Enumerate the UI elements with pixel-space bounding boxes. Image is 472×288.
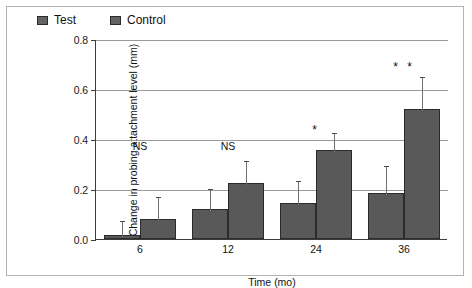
y-axis-tick xyxy=(91,240,96,241)
x-axis-tick-label: 12 xyxy=(184,243,272,255)
error-bar-cap xyxy=(208,189,213,190)
bar-group: 12 xyxy=(184,39,272,239)
figure-frame: Test Control Change in probing attachmen… xyxy=(6,6,464,276)
y-axis-tick-label: 0.8 xyxy=(74,34,88,46)
legend-item-control: Control xyxy=(110,13,166,27)
legend-label-control: Control xyxy=(127,13,166,27)
bar-test-24 xyxy=(280,203,316,239)
error-bar xyxy=(422,78,423,111)
error-bar xyxy=(122,222,123,238)
bar-test-12 xyxy=(192,209,228,239)
significance-annotation: * xyxy=(312,123,320,137)
x-axis-tick-label: 24 xyxy=(272,243,360,255)
error-bar-cap xyxy=(296,181,301,182)
x-axis-tick-label: 36 xyxy=(360,243,448,255)
chart-legend: Test Control xyxy=(37,13,166,27)
significance-annotation: NS xyxy=(221,140,236,152)
bar-group: 6 xyxy=(96,39,184,239)
y-axis-tick-label: 0.0 xyxy=(74,234,88,246)
error-bar xyxy=(246,162,247,185)
x-axis-title: Time (mo) xyxy=(96,276,448,288)
error-bar xyxy=(334,134,335,152)
bar-control-12 xyxy=(228,183,264,239)
significance-annotation: * * xyxy=(393,60,415,74)
legend-swatch-control xyxy=(110,16,121,25)
legend-label-test: Test xyxy=(54,13,76,27)
error-bar-cap xyxy=(120,221,125,222)
x-axis-tick-label: 6 xyxy=(96,243,184,255)
error-bar xyxy=(210,190,211,211)
bar-control-24 xyxy=(316,150,352,239)
bar-control-36 xyxy=(404,109,440,239)
error-bar-cap xyxy=(244,161,249,162)
legend-swatch-test xyxy=(37,16,48,25)
error-bar-cap xyxy=(420,77,425,78)
error-bar xyxy=(298,182,299,205)
plot-area: Change in probing attachment level (mm) … xyxy=(95,40,447,240)
y-axis-tick-label: 0.2 xyxy=(74,184,88,196)
bar-control-6 xyxy=(140,219,176,239)
legend-item-test: Test xyxy=(37,13,76,27)
bar-test-36 xyxy=(368,193,404,239)
significance-annotation: NS xyxy=(133,140,148,152)
y-axis-tick-label: 0.4 xyxy=(74,134,88,146)
y-axis-tick-label: 0.6 xyxy=(74,84,88,96)
error-bar xyxy=(386,167,387,195)
bar-group: 24 xyxy=(272,39,360,239)
error-bar-cap xyxy=(384,166,389,167)
error-bar-cap xyxy=(332,133,337,134)
error-bar-cap xyxy=(156,197,161,198)
error-bar xyxy=(158,198,159,221)
